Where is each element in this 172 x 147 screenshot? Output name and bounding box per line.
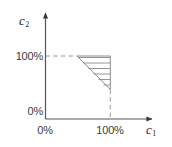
y-axis-title-subscript: 2: [25, 20, 29, 29]
y-axis-tick-label-100: 100%: [5, 50, 43, 62]
x-axis-title: c1: [146, 122, 156, 138]
y-axis-title-letter: c: [19, 13, 25, 28]
x-axis-title-subscript: 1: [152, 129, 156, 138]
y-axis-tick-label-0: 0%: [5, 105, 43, 117]
region-border: [77, 56, 110, 90]
x-axis-title-letter: c: [146, 122, 152, 137]
y-axis-title: c2: [19, 13, 29, 29]
x-axis-tick-label-100: 100%: [93, 124, 127, 136]
chart-figure: 100% 0% 0% 100% c2 c1: [0, 0, 172, 147]
x-axis-tick-label-0: 0%: [30, 124, 60, 136]
